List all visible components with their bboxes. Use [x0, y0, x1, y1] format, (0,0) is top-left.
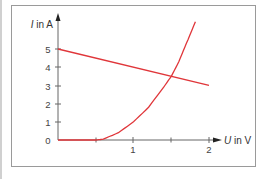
- y-tick-5: 5: [45, 44, 50, 55]
- y-axis: 0 1 2 3 4 5 I in A: [31, 13, 61, 146]
- load-line-series: [58, 49, 209, 85]
- y-tick-2: 2: [45, 99, 50, 110]
- x-axis-label: U in V: [224, 135, 252, 146]
- chart: 0 1 2 3 4 5 I in A 1 2 U in V: [0, 0, 263, 179]
- x-tick-1: 1: [130, 144, 135, 155]
- y-tick-3: 3: [45, 81, 50, 92]
- x-axis: 1 2 U in V: [58, 135, 252, 155]
- x-tick-2: 2: [206, 144, 211, 155]
- y-tick-4: 4: [45, 62, 50, 73]
- y-tick-1: 1: [45, 117, 50, 128]
- y-axis-label: I in A: [31, 19, 54, 30]
- y-tick-0: 0: [45, 135, 50, 146]
- x-axis-arrow-icon: [213, 138, 222, 143]
- diode-curve-series: [58, 22, 195, 140]
- y-axis-arrow-icon: [56, 13, 61, 21]
